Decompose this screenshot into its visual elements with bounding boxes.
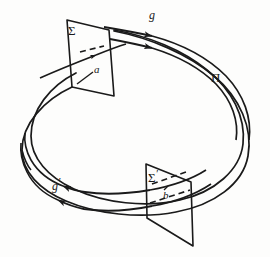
- label-g-prime-mark: ′: [58, 175, 60, 187]
- label-pi: Π: [211, 71, 220, 84]
- label-sigma-prime-mark: ′: [156, 167, 158, 179]
- label-b: b: [163, 190, 169, 201]
- hidden-flow-dash-sigma: [80, 46, 104, 52]
- orbit-curve-gprime-upper: [63, 170, 206, 194]
- band-diagram-svg: [0, 0, 270, 257]
- figure-root: Σ Σ′ Π g g′ a b: [0, 0, 270, 257]
- band-inner-curve: [31, 30, 243, 204]
- orbit-curve-g-lower: [110, 39, 237, 140]
- label-sigma: Σ: [68, 24, 76, 37]
- label-g: g: [149, 9, 155, 21]
- label-g-prime: g′: [52, 176, 60, 192]
- label-sigma-prime-base: Σ: [148, 170, 156, 185]
- label-sigma-prime: Σ′: [148, 168, 158, 184]
- leader-line-a: [77, 72, 93, 84]
- label-a: a: [94, 64, 100, 75]
- flow-through-sigma: [40, 44, 126, 78]
